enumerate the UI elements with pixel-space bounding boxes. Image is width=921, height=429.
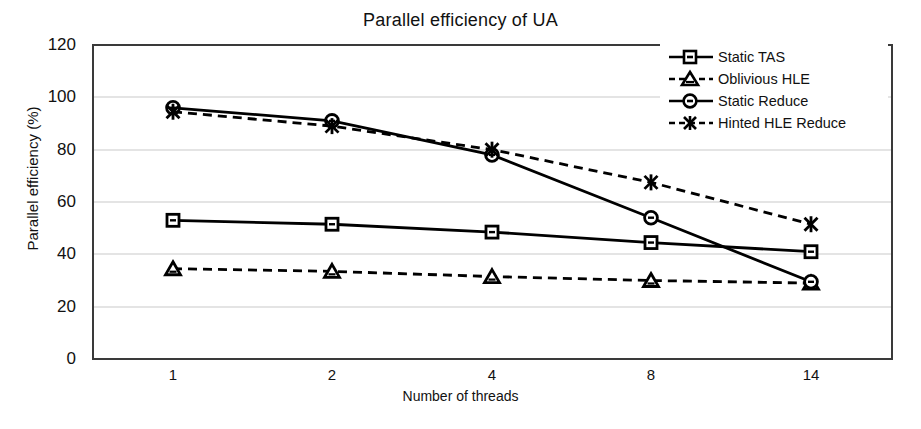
data-point-square	[486, 226, 498, 238]
legend-item-static-reduce: Static Reduce	[668, 90, 882, 112]
legend-item-oblivious-hle: Oblivious HLE	[668, 68, 882, 90]
data-point-square	[167, 214, 179, 226]
chart-figure: Parallel efficiency of UA Parallel effic…	[0, 0, 921, 429]
legend-label-hinted-hle-reduce: Hinted HLE Reduce	[718, 112, 846, 134]
data-point-x	[805, 216, 818, 232]
legend-label-static-tas: Static TAS	[718, 46, 785, 68]
data-point-triangle	[644, 274, 659, 287]
legend-item-hinted-hle-reduce: Hinted HLE Reduce	[668, 112, 882, 134]
legend-label-oblivious-hle: Oblivious HLE	[718, 68, 810, 90]
data-point-circle	[805, 275, 818, 288]
data-point-circle	[645, 211, 658, 224]
legend-symbol-triangle-dashed	[668, 69, 714, 89]
data-point-square	[805, 246, 817, 258]
chart-legend: Static TAS Oblivious HLE Static Reduce	[660, 42, 888, 140]
data-point-square	[645, 237, 657, 249]
legend-label-static-reduce: Static Reduce	[718, 90, 808, 112]
legend-symbol-x-dashed	[668, 113, 714, 133]
data-point-triangle	[325, 264, 340, 277]
data-point-triangle	[485, 270, 500, 283]
data-point-triangle	[166, 262, 181, 275]
legend-symbol-circle-solid	[668, 91, 714, 111]
data-point-square	[326, 218, 338, 230]
series-oblivious-hle	[166, 262, 819, 289]
series-static-tas	[167, 214, 817, 257]
legend-symbol-square-solid	[668, 47, 714, 67]
legend-item-static-tas: Static TAS	[668, 46, 882, 68]
